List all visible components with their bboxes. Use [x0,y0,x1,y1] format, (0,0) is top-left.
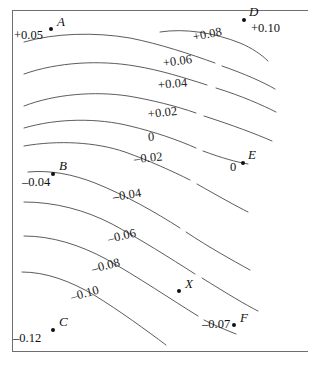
data-point-value-e: 0 [230,160,236,175]
data-point-dot-a [49,27,53,31]
data-point-value-a: +0.05 [14,28,43,43]
contour-path-minus-0-06-b [202,278,258,311]
data-point-dot-b [51,172,55,176]
data-point-value-d: +0.10 [251,21,280,36]
data-point-dot-c [51,328,55,332]
data-point-dot-e [241,161,245,165]
data-point-label-e: E [248,147,256,163]
contour-label: +0.02 [147,104,178,122]
data-point-value-f: –0.07 [202,317,230,332]
contour-path-zero [24,120,196,148]
data-point-label-f: F [240,310,248,326]
contour-label: +0.04 [157,75,188,93]
data-point-label-a: A [57,14,65,30]
contour-path-minus-0-04 [28,171,180,228]
contour-path-minus-0-04-b [186,232,250,270]
data-point-dot-x [177,289,181,293]
contour-path-plus-0-02-b [204,116,272,141]
data-point-value-b: –0.04 [22,175,50,190]
contour-path-plus-0-06-b [222,66,275,89]
data-point-dot-f [232,323,236,327]
data-point-label-b: B [59,158,67,174]
data-point-value-c: –0.12 [13,331,41,346]
contour-map-figure: +0.08 +0.06 +0.04 +0.02 0 –0.02 –0.04 –0… [0,0,316,367]
data-point-label-d: D [249,4,258,20]
data-point-dot-d [242,18,246,22]
contour-label: 0 [147,130,154,145]
contour-path-plus-0-04-b [216,88,276,112]
contour-path-minus-0-02-b [197,184,248,212]
contour-label: –0.02 [133,150,163,167]
data-point-label-x: X [185,276,193,292]
data-point-label-c: C [59,314,68,330]
